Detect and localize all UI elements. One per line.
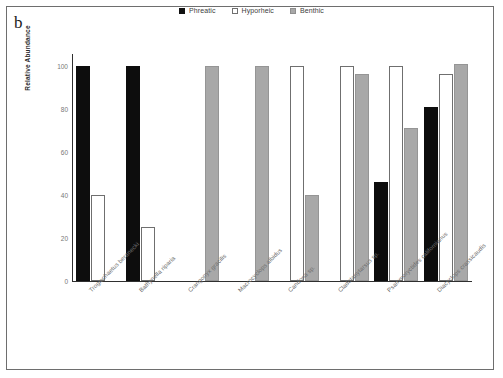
y-axis-label: Relative Abundance: [24, 0, 31, 118]
bar-benthic: [255, 66, 269, 281]
figure-panel: b Phreatic Hyporheic Benthic Relative Ab…: [0, 0, 503, 378]
bar-hyporheic: [290, 66, 304, 281]
y-tick-label: 20: [48, 234, 68, 241]
x-axis-line: [72, 281, 472, 282]
bar-group: [73, 55, 123, 281]
bar-hyporheic: [340, 66, 354, 281]
y-tick-label: 80: [48, 105, 68, 112]
bar-group: [173, 55, 223, 281]
bar-hyporheic: [91, 195, 105, 281]
bar-benthic: [205, 66, 219, 281]
panel-label: b: [14, 14, 23, 31]
bar-benthic: [355, 74, 369, 281]
bar-hyporheic: [439, 74, 453, 281]
y-tick-label: 60: [48, 148, 68, 155]
bar-hyporheic: [389, 66, 403, 281]
y-tick-label: 100: [48, 62, 68, 69]
bar-benthic: [454, 64, 468, 281]
bar-group: [222, 55, 272, 281]
bar-group: [372, 55, 422, 281]
y-tick-label: 40: [48, 191, 68, 198]
bar-group: [322, 55, 372, 281]
bar-phreatic: [374, 182, 388, 281]
bar-phreatic: [76, 66, 90, 281]
y-tick-label: 0: [48, 278, 68, 285]
